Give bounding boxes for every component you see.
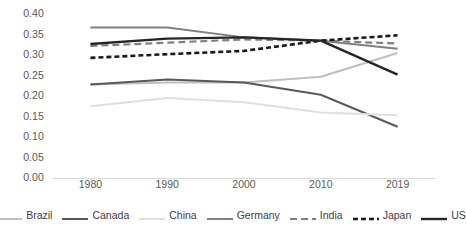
legend-label: US — [451, 209, 466, 221]
y-tick-label: 0.00 — [8, 171, 44, 183]
legend-item-brazil[interactable]: Brazil — [0, 209, 52, 221]
y-tick-label: 0.35 — [8, 28, 44, 40]
legend-swatch-icon — [139, 210, 165, 220]
legend-item-us[interactable]: US — [421, 209, 466, 221]
y-tick-label: 0.30 — [8, 48, 44, 60]
series-line-brazil — [90, 53, 397, 85]
legend-label: China — [169, 209, 196, 221]
legend-label: Canada — [92, 209, 129, 221]
legend-item-canada[interactable]: Canada — [62, 209, 129, 221]
legend-item-india[interactable]: India — [290, 209, 343, 221]
y-tick-label: 0.40 — [8, 7, 44, 19]
legend-swatch-icon — [290, 210, 316, 220]
y-tick-label: 0.25 — [8, 69, 44, 81]
legend-swatch-icon — [353, 210, 379, 220]
legend-label: Brazil — [26, 209, 52, 221]
x-tick-label: 2019 — [368, 178, 428, 190]
series-canvas — [52, 14, 436, 178]
chart-legend: BrazilCanadaChinaGermanyIndiaJapanUS — [0, 204, 462, 226]
legend-item-japan[interactable]: Japan — [353, 209, 412, 221]
legend-label: Germany — [237, 209, 280, 221]
legend-label: Japan — [383, 209, 412, 221]
legend-swatch-icon — [421, 210, 447, 220]
y-tick-label: 0.20 — [8, 89, 44, 101]
legend-item-china[interactable]: China — [139, 209, 196, 221]
plot-area — [52, 14, 436, 178]
legend-item-germany[interactable]: Germany — [207, 209, 280, 221]
x-tick-label: 1980 — [60, 178, 120, 190]
y-tick-label: 0.15 — [8, 110, 44, 122]
legend-label: India — [320, 209, 343, 221]
legend-swatch-icon — [0, 210, 22, 220]
y-tick-label: 0.10 — [8, 130, 44, 142]
series-line-canada — [90, 80, 397, 127]
x-tick-label: 1990 — [137, 178, 197, 190]
legend-swatch-icon — [207, 210, 233, 220]
y-tick-label: 0.05 — [8, 151, 44, 163]
x-tick-label: 2000 — [214, 178, 274, 190]
legend-swatch-icon — [62, 210, 88, 220]
x-tick-label: 2010 — [291, 178, 351, 190]
